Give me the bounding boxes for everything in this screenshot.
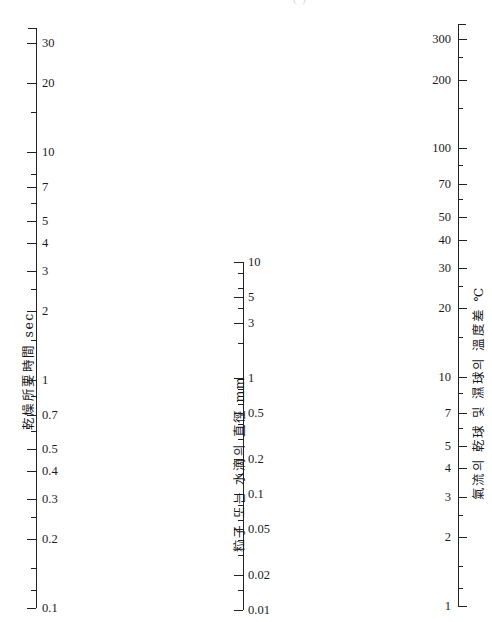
axis-tick-minor — [458, 566, 463, 567]
axis-tick-minor — [31, 174, 36, 175]
axis-tick-major — [458, 446, 467, 447]
axis-tick-label: 0.2 — [248, 453, 264, 466]
axis-tick-major — [234, 575, 243, 576]
axis-tick-minor — [458, 428, 463, 429]
axis-tick-label: 0.1 — [248, 488, 264, 501]
axis-tick-label: 20 — [42, 77, 55, 90]
axis-title: 乾燥所要時間 sec — [18, 312, 37, 430]
axis-tick-label: 50 — [439, 211, 452, 224]
axis-tick-label: 5 — [42, 214, 48, 227]
axis-tick-label: 30 — [42, 37, 55, 50]
axis-tick-major — [234, 323, 243, 324]
axis-tick-minor — [458, 588, 463, 589]
axis-tick-label: 1 — [248, 372, 254, 385]
axis-tick-label: 0.01 — [248, 604, 270, 617]
clipped-figure-header: ( ) — [120, 0, 480, 6]
axis-tick-label: 0.02 — [248, 569, 270, 582]
axis-tick-label: 1 — [42, 374, 48, 387]
axis-tick-minor — [458, 515, 463, 516]
axis-tick-major — [458, 39, 467, 40]
axis-cap-bottom — [28, 608, 36, 609]
axis-tick-minor — [458, 337, 463, 338]
axis-tick-minor — [458, 199, 463, 200]
axis-tick-minor — [31, 112, 36, 113]
axis-tick-label: 0.2 — [42, 533, 58, 546]
axis-tick-major — [458, 377, 467, 378]
axis-tick-minor — [31, 203, 36, 204]
axis-tick-minor — [31, 590, 36, 591]
axis-tick-major — [27, 187, 36, 188]
axis-cap-top — [28, 28, 36, 29]
axis-tick-minor — [458, 286, 463, 287]
axis-tick-label: 3 — [42, 265, 48, 278]
axis-tick-major — [458, 537, 467, 538]
axis-tick-major — [458, 468, 467, 469]
nomogram-figure: ( ) 3020107543210.70.50.40.30.20.1 10531… — [0, 0, 492, 622]
axis-tick-minor — [31, 568, 36, 569]
axis-tick-major — [27, 152, 36, 153]
axis-tick-minor — [31, 517, 36, 518]
axis-tick-minor — [238, 590, 243, 591]
axis-tick-major — [458, 497, 467, 498]
axis-tick-major — [458, 80, 467, 81]
axis-tick-major — [27, 539, 36, 540]
axis-tick-label: 0.5 — [42, 442, 58, 455]
axis-tick-major — [458, 148, 467, 149]
axis-tick-label: 10 — [439, 371, 452, 384]
axis-cap-top — [235, 262, 243, 263]
axis-tick-major — [234, 297, 243, 298]
axis-tick-minor — [238, 555, 243, 556]
axis-tick-major — [27, 243, 36, 244]
axis-title: 粒子 또는 水滴의 直徑 mm — [229, 376, 248, 552]
axis-tick-label: 30 — [439, 262, 452, 275]
axis-tick-label: 0.7 — [42, 409, 58, 422]
axis-tick-label: 5 — [248, 291, 254, 304]
axis-tick-major — [27, 221, 36, 222]
axis-tick-minor — [458, 165, 463, 166]
axis-tick-major — [458, 240, 467, 241]
axis-tick-label: 0.1 — [42, 602, 58, 615]
axis-tick-label: 3 — [445, 491, 451, 504]
axis-tick-label: 7 — [42, 181, 48, 194]
axis-tick-minor — [238, 273, 243, 274]
axis-tick-label: 5 — [445, 440, 451, 453]
axis-tick-label: 2 — [42, 305, 48, 318]
axis-spine — [458, 24, 459, 606]
axis-cap-bottom — [235, 610, 243, 611]
axis-tick-minor — [31, 431, 36, 432]
axis-tick-label: 0.4 — [42, 464, 58, 477]
axis-tick-minor — [458, 393, 463, 394]
axis-tick-label: 10 — [42, 146, 55, 159]
axis-tick-label: 10 — [248, 256, 261, 269]
axis-tick-label: 300 — [432, 33, 451, 46]
axis-tick-minor — [238, 288, 243, 289]
axis-tick-major — [458, 413, 467, 414]
axis-tick-major — [27, 83, 36, 84]
axis-tick-label: 40 — [439, 233, 452, 246]
axis-tick-label: 0.05 — [248, 523, 270, 536]
axis-tick-major — [27, 471, 36, 472]
axis-tick-minor — [238, 308, 243, 309]
axis-tick-label: 2 — [445, 531, 451, 544]
axis-tick-minor — [458, 57, 463, 58]
axis-tick-major — [27, 271, 36, 272]
axis-tick-minor — [458, 108, 463, 109]
axis-cap-top — [458, 24, 466, 25]
axis-tick-label: 0.3 — [42, 493, 58, 506]
axis-tick-major — [458, 184, 467, 185]
axis-tick-label: 200 — [432, 73, 451, 86]
axis-tick-minor — [31, 289, 36, 290]
axis-tick-major — [27, 449, 36, 450]
axis-tick-label: 3 — [248, 316, 254, 329]
axis-tick-label: 100 — [432, 142, 451, 155]
axis-tick-major — [458, 217, 467, 218]
axis-tick-label: 1 — [445, 600, 451, 613]
axis-tick-major — [458, 268, 467, 269]
axis-tick-major — [458, 308, 467, 309]
axis-cap-bottom — [458, 606, 466, 607]
axis-tick-major — [27, 499, 36, 500]
axis-tick-label: 20 — [439, 302, 452, 315]
axis-tick-label: 0.5 — [248, 407, 264, 420]
axis-title: 氣流의 乾球 및 濕球의 溫度差 ℃ — [468, 286, 487, 500]
axis-tick-minor — [238, 343, 243, 344]
